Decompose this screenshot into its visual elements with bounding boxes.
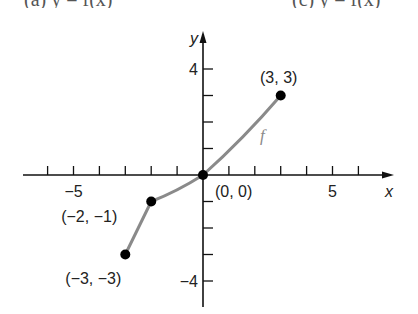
x-tick-label: −5 [64,183,82,200]
data-point [198,170,208,180]
x-axis-arrow-icon [382,172,394,179]
x-axis-label: x [384,183,394,200]
x-tick-label: 5 [328,183,337,200]
function-graph: 5−54−4xy(−3, −3)(−2, −1)(0, 0)(3, 3)f [0,0,418,314]
y-axis-label: y [189,30,199,47]
data-point [120,250,130,260]
y-tick-label: −4 [180,273,198,290]
data-point [276,91,286,101]
point-label: (0, 0) [215,183,252,200]
y-axis-arrow-icon [200,31,207,43]
point-label: (−3, −3) [65,270,121,287]
data-point [146,197,156,207]
point-label: (−2, −1) [61,208,117,225]
point-label: (3, 3) [260,69,297,86]
labels: 5−54−4xy(−3, −3)(−2, −1)(0, 0)(3, 3)f [61,30,394,290]
function-name-label: f [260,126,267,145]
y-tick-label: 4 [189,61,198,78]
